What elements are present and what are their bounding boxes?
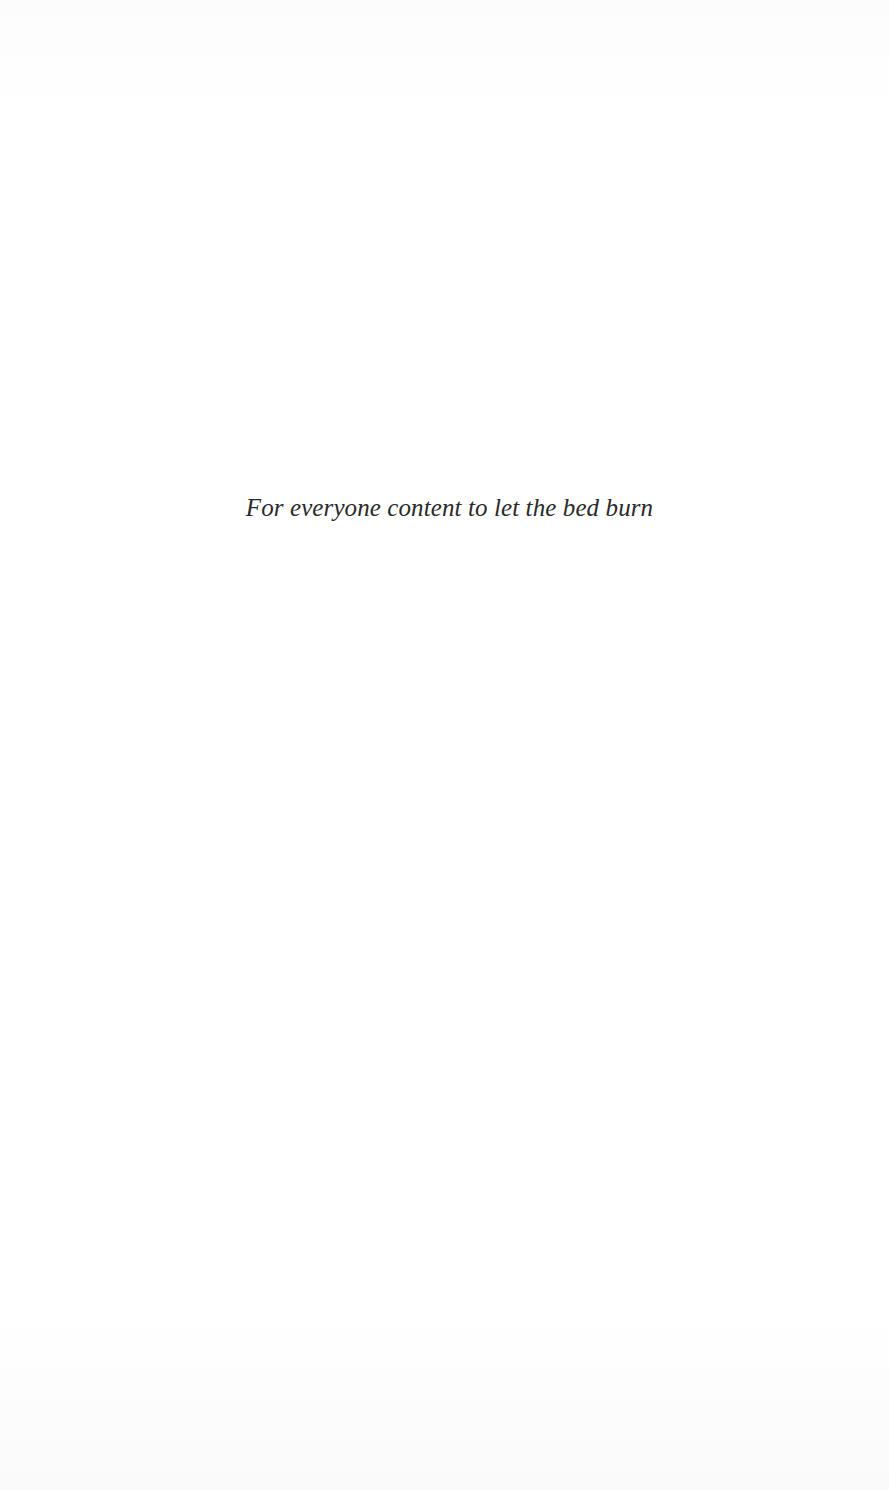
book-page: For everyone content to let the bed burn bbox=[0, 0, 889, 1490]
dedication-text: For everyone content to let the bed burn bbox=[0, 490, 889, 526]
